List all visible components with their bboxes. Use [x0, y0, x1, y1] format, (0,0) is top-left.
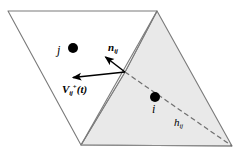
velocity-vector-subscript: ij	[69, 89, 73, 96]
particle-j-label: j	[57, 44, 60, 56]
normal-vector-subscript: ij	[114, 47, 118, 54]
particle-i-dot	[150, 92, 160, 102]
velocity-vector-time-arg: (t)	[77, 83, 87, 95]
figure-canvas	[0, 0, 239, 158]
normal-vector-label: nij	[108, 42, 118, 53]
velocity-vector-superscript: +	[73, 83, 77, 90]
velocity-vector-label: Vij+(t)	[62, 84, 87, 95]
geometry-figure: j i nij Vij+(t) hij	[0, 0, 239, 158]
particle-j-dot	[68, 43, 78, 53]
branch-length-symbol: h	[174, 116, 180, 128]
particle-i-label: i	[152, 103, 155, 115]
branch-length-subscript: ij	[180, 122, 184, 129]
branch-length-label: hij	[174, 117, 183, 128]
